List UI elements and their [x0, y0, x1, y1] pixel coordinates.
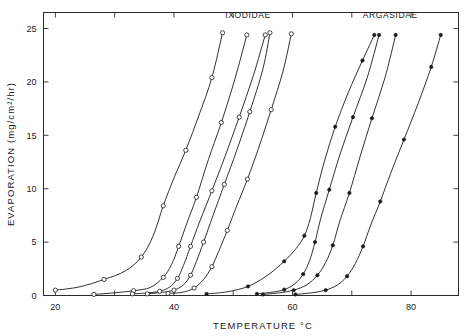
- marker-open-circle: [222, 182, 226, 186]
- marker-open-circle: [263, 33, 267, 37]
- y-tick-label: 5: [31, 237, 36, 247]
- x-axis-ticks: [55, 13, 411, 296]
- curve-7: [257, 35, 379, 294]
- axes-frame: [44, 13, 459, 296]
- marker-open-circle: [53, 288, 57, 292]
- marker-open-circle: [158, 289, 162, 293]
- marker-filled-circle: [283, 260, 286, 263]
- marker-open-circle: [192, 286, 196, 290]
- marker-filled-circle: [303, 234, 306, 237]
- marker-open-circle: [220, 31, 224, 35]
- marker-filled-circle: [373, 33, 376, 36]
- marker-open-circle: [237, 115, 241, 119]
- x-axis-tick-labels: 20406080: [50, 302, 416, 312]
- marker-filled-circle: [283, 288, 286, 291]
- group-annotations: IXODIDAEARGASIDAE: [225, 10, 417, 20]
- marker-open-circle: [248, 110, 252, 114]
- marker-open-circle: [92, 292, 96, 296]
- x-axis-title: TEMPERATURE °C: [213, 320, 313, 331]
- group-label-2: ARGASIDAE: [363, 10, 418, 20]
- data-point-markers: [53, 31, 442, 297]
- marker-filled-circle: [255, 292, 258, 295]
- marker-filled-circle: [377, 33, 380, 36]
- marker-filled-circle: [294, 293, 297, 296]
- curve-4: [147, 33, 270, 294]
- marker-open-circle: [177, 244, 181, 248]
- marker-filled-circle: [348, 191, 351, 194]
- marker-filled-circle: [261, 293, 264, 296]
- y-tick-label: 25: [26, 24, 36, 34]
- marker-filled-circle: [379, 200, 382, 203]
- marker-filled-circle: [333, 125, 336, 128]
- marker-filled-circle: [246, 285, 249, 288]
- marker-open-circle: [130, 292, 134, 296]
- marker-open-circle: [175, 276, 179, 280]
- x-tick-label: 80: [406, 302, 416, 312]
- y-axis-tick-labels: 0510152025: [26, 24, 36, 301]
- marker-filled-circle: [315, 191, 318, 194]
- marker-open-circle: [268, 31, 272, 35]
- x-tick-label: 60: [287, 302, 297, 312]
- curve-2: [94, 35, 247, 295]
- marker-open-circle: [201, 240, 205, 244]
- marker-filled-circle: [351, 115, 354, 118]
- marker-open-circle: [210, 76, 214, 80]
- curve-1: [55, 33, 222, 290]
- marker-filled-circle: [301, 272, 304, 275]
- marker-open-circle: [172, 288, 176, 292]
- marker-filled-circle: [292, 288, 295, 291]
- evaporation-temperature-figure: 20406080 0510152025 IXODIDAEARGASIDAE TE…: [0, 0, 471, 336]
- y-tick-label: 10: [26, 184, 36, 194]
- marker-filled-circle: [430, 65, 433, 68]
- marker-filled-circle: [370, 117, 373, 120]
- plot-frame: [44, 13, 459, 296]
- x-tick-label: 40: [169, 302, 179, 312]
- marker-open-circle: [210, 189, 214, 193]
- marker-open-circle: [161, 204, 165, 208]
- curve-5: [168, 34, 291, 294]
- marker-filled-circle: [402, 138, 405, 141]
- marker-open-circle: [210, 265, 214, 269]
- group-label-1: IXODIDAE: [225, 10, 270, 20]
- y-tick-label: 20: [26, 77, 36, 87]
- y-tick-label: 15: [26, 131, 36, 141]
- marker-open-circle: [225, 228, 229, 232]
- marker-open-circle: [269, 108, 273, 112]
- marker-open-circle: [188, 273, 192, 277]
- marker-open-circle: [161, 275, 165, 279]
- marker-filled-circle: [345, 275, 348, 278]
- marker-filled-circle: [324, 288, 327, 291]
- marker-open-circle: [139, 255, 143, 259]
- x-tick-label: 20: [50, 302, 60, 312]
- marker-open-circle: [289, 32, 293, 36]
- chart-canvas: 20406080 0510152025 IXODIDAEARGASIDAE TE…: [0, 0, 471, 336]
- y-axis-title: EVAPORATION (mg/cm²/hr): [5, 82, 16, 226]
- marker-open-circle: [145, 292, 149, 296]
- curve-8: [263, 35, 396, 295]
- marker-filled-circle: [439, 33, 442, 36]
- marker-filled-circle: [394, 33, 397, 36]
- marker-filled-circle: [361, 59, 364, 62]
- marker-open-circle: [194, 195, 198, 199]
- data-curves: [55, 33, 440, 295]
- marker-open-circle: [245, 177, 249, 181]
- marker-open-circle: [184, 148, 188, 152]
- marker-open-circle: [166, 291, 170, 295]
- marker-filled-circle: [328, 188, 331, 191]
- marker-filled-circle: [205, 292, 208, 295]
- marker-open-circle: [219, 120, 223, 124]
- marker-open-circle: [102, 277, 106, 281]
- marker-open-circle: [188, 244, 192, 248]
- y-axis-ticks: [44, 29, 459, 296]
- marker-open-circle: [245, 33, 249, 37]
- marker-filled-circle: [331, 244, 334, 247]
- y-tick-label: 0: [31, 291, 36, 301]
- marker-filled-circle: [361, 245, 364, 248]
- marker-filled-circle: [313, 240, 316, 243]
- marker-filled-circle: [316, 274, 319, 277]
